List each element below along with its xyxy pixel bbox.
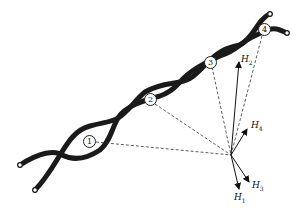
wire-end-icon [33, 188, 38, 193]
field-vectors [231, 62, 249, 189]
vector-label-h3: H3 [252, 181, 264, 192]
segment-label-3: 3 [204, 56, 217, 69]
distance-lines [96, 36, 262, 155]
wire-end-icon [268, 12, 273, 17]
vector-h2 [231, 62, 239, 155]
segment-label-1: 1 [83, 135, 96, 148]
wire-end-icon [285, 31, 290, 36]
wire-end-icon [18, 163, 23, 168]
segment-label-4: 4 [258, 23, 271, 36]
vector-label-h2: H2 [241, 55, 253, 66]
segment-label-2: 2 [144, 93, 157, 106]
vector-label-h1: H1 [234, 193, 246, 204]
vector-label-h4: H4 [251, 121, 263, 132]
